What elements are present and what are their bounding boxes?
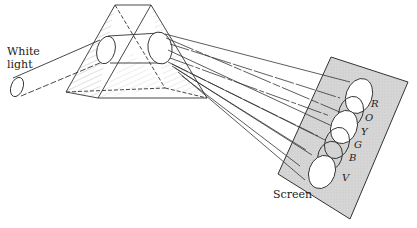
white-light-label-line2: light xyxy=(7,58,33,71)
prism-dispersion-diagram: White light Screen R O Y G B V xyxy=(0,0,417,228)
prism xyxy=(66,5,207,98)
screen-label: Screen xyxy=(273,188,312,201)
band-label-blue: B xyxy=(348,152,356,163)
band-label-red: R xyxy=(370,98,379,109)
band-label-green: G xyxy=(354,139,362,150)
band-label-orange: O xyxy=(365,112,373,123)
white-light-label-line1: White xyxy=(7,45,40,58)
